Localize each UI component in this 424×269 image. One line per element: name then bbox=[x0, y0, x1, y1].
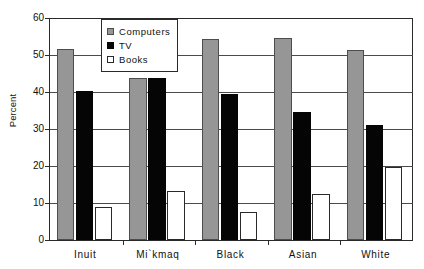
bar-chart: Percent 0102030405060 InuitMi`kmaqBlackA… bbox=[0, 0, 424, 269]
x-tick-label-asian: Asian bbox=[289, 249, 318, 260]
y-tick-label-10: 10 bbox=[18, 198, 44, 208]
legend-item-books: Books bbox=[107, 53, 170, 66]
bar-tv bbox=[293, 112, 311, 240]
x-tick-mark-4 bbox=[340, 240, 341, 245]
bar-books bbox=[385, 167, 403, 240]
y-tick-label-0: 0 bbox=[18, 235, 44, 245]
legend-label: Computers bbox=[119, 26, 170, 37]
y-tick-label-60: 60 bbox=[18, 13, 44, 23]
bar-group bbox=[202, 18, 258, 240]
y-tick-label-30: 30 bbox=[18, 124, 44, 134]
y-tick-mark-20 bbox=[45, 166, 50, 167]
bar-books bbox=[95, 207, 113, 240]
y-tick-label-40: 40 bbox=[18, 87, 44, 97]
y-tick-label-50: 50 bbox=[18, 50, 44, 60]
computers-swatch-icon bbox=[107, 28, 114, 35]
bar-books bbox=[240, 212, 258, 240]
bar-group bbox=[347, 18, 403, 240]
x-tick-label-black: Black bbox=[217, 249, 245, 260]
bar-computers bbox=[274, 38, 292, 240]
legend-label: TV bbox=[119, 40, 132, 51]
y-axis-title: Percent bbox=[7, 81, 18, 141]
bar-tv bbox=[221, 94, 239, 240]
bar-group bbox=[274, 18, 330, 240]
bar-books bbox=[167, 191, 185, 240]
x-tick-mark-3 bbox=[268, 240, 269, 245]
books-swatch-icon bbox=[107, 56, 114, 63]
x-axis-tick-labels: InuitMi`kmaqBlackAsianWhite bbox=[49, 249, 412, 269]
legend: ComputersTVBooks bbox=[101, 19, 178, 72]
x-tick-label-white: White bbox=[361, 249, 390, 260]
bar-computers bbox=[202, 39, 220, 240]
bar-computers bbox=[347, 50, 365, 240]
y-tick-mark-30 bbox=[45, 129, 50, 130]
bar-books bbox=[312, 194, 330, 240]
y-tick-mark-50 bbox=[45, 55, 50, 56]
legend-item-tv: TV bbox=[107, 39, 170, 52]
y-tick-label-20: 20 bbox=[18, 161, 44, 171]
x-tick-label-mikmaq: Mi`kmaq bbox=[136, 249, 179, 260]
y-tick-mark-60 bbox=[45, 18, 50, 19]
x-tick-mark-1 bbox=[123, 240, 124, 245]
bar-computers bbox=[129, 78, 147, 240]
legend-item-computers: Computers bbox=[107, 25, 170, 38]
y-tick-mark-10 bbox=[45, 203, 50, 204]
y-tick-mark-0 bbox=[45, 240, 50, 241]
y-axis-tick-labels: 0102030405060 bbox=[18, 0, 44, 269]
x-tick-mark-2 bbox=[195, 240, 196, 245]
bar-tv bbox=[76, 91, 94, 240]
y-tick-mark-40 bbox=[45, 92, 50, 93]
x-tick-label-inuit: Inuit bbox=[74, 249, 96, 260]
legend-label: Books bbox=[119, 54, 148, 65]
tv-swatch-icon bbox=[107, 42, 114, 49]
bar-computers bbox=[57, 49, 75, 240]
bar-tv bbox=[148, 78, 166, 240]
bar-tv bbox=[366, 125, 384, 240]
